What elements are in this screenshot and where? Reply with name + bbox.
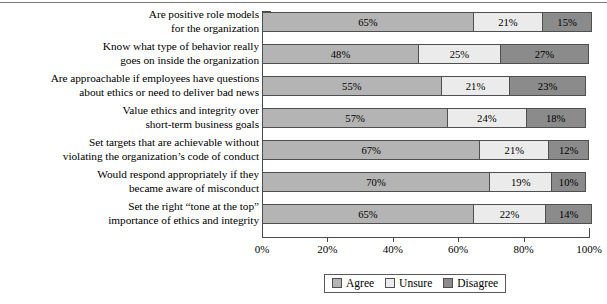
bar-segment-disagree: 18% [527,109,585,127]
bar-segment-value: 15% [557,17,576,28]
bar-segment-unsure: 24% [447,109,527,127]
x-tick-label: 100% [576,243,602,255]
stacked-bar: 67%21%12% [262,140,589,160]
bar-segment-disagree: 23% [510,77,584,95]
bar-segment-value: 21% [498,17,517,28]
category-label-line: Set targets that are achievable without [9,136,259,149]
legend-label-disagree: Disagree [457,277,498,289]
bar-segment-value: 14% [559,209,578,220]
bar-segment-value: 55% [342,81,361,92]
legend-item-unsure[interactable]: Unsure [385,277,432,289]
category-label-line: Would respond appropriately if they [9,168,259,181]
x-tick-label: 40% [383,243,403,255]
x-tick-mark [458,237,459,242]
bar-segment-agree: 67% [263,141,479,159]
category-label: Are approachable if employees have quest… [9,72,259,98]
bar-row: Are approachable if employees have quest… [0,76,607,96]
category-label-line: Set the right “tone at the top” [9,200,259,213]
bar-segment-value: 12% [559,145,578,156]
bar-segment-value: 22% [500,209,519,220]
x-tick-mark [524,237,525,242]
bar-segment-agree: 48% [263,45,418,63]
bar-segment-value: 19% [511,177,530,188]
bar-segment-unsure: 21% [479,141,549,159]
bar-segment-unsure: 19% [489,173,552,191]
category-label: Know what type of behavior reallygoes on… [9,40,259,66]
legend-swatch-agree-icon [332,278,342,288]
bar-segment-unsure: 21% [473,13,543,31]
bar-segment-value: 21% [505,145,524,156]
bar-segment-value: 23% [538,81,557,92]
stacked-bar: 65%21%15% [262,12,592,32]
bar-segment-disagree: 27% [501,45,588,63]
bar-segment-value: 57% [345,113,364,124]
stacked-bar: 57%24%18% [262,108,586,128]
bar-row: Set the right “tone at the top”importanc… [0,204,607,224]
bar-row: Value ethics and integrity overshort-ter… [0,108,607,128]
x-tick-label: 80% [514,243,534,255]
x-tick-label: 60% [448,243,468,255]
category-label: Set the right “tone at the top”importanc… [9,200,259,226]
legend-item-disagree[interactable]: Disagree [443,277,498,289]
category-label-line: importance of ethics and integrity [9,214,259,227]
x-axis-line [262,237,590,238]
bar-segment-value: 25% [450,49,469,60]
bar-segment-disagree: 14% [546,205,591,223]
bar-segment-value: 21% [466,81,485,92]
stacked-bar: 55%21%23% [262,76,586,96]
category-label-line: Know what type of behavior really [9,40,259,53]
category-label: Value ethics and integrity overshort-ter… [9,104,259,130]
bar-segment-agree: 65% [263,205,473,223]
chart-legend: Agree Unsure Disagree [324,274,506,293]
category-label-line: Value ethics and integrity over [9,104,259,117]
category-label-line: Are approachable if employees have quest… [9,72,259,85]
bar-segment-unsure: 22% [473,205,546,223]
legend-label-agree: Agree [346,277,374,289]
category-label-line: became aware of misconduct [9,182,259,195]
stacked-bar: 70%19%10% [262,172,586,192]
category-label: Are positive role modelsfor the organiza… [9,8,259,34]
bar-row: Are positive role modelsfor the organiza… [0,12,607,32]
bar-row: Would respond appropriately if theybecam… [0,172,607,192]
x-tick-mark [327,237,328,242]
category-label-line: about ethics or need to deliver bad news [9,86,259,99]
bar-segment-unsure: 21% [441,77,511,95]
bar-segment-value: 67% [361,145,380,156]
bar-segment-value: 70% [366,177,385,188]
bar-segment-disagree: 12% [549,141,588,159]
bar-row: Set targets that are achievable withoutv… [0,140,607,160]
x-tick-mark [393,237,394,242]
x-tick-label: 0% [255,243,270,255]
stacked-bar: 65%22%14% [262,204,592,224]
bar-segment-agree: 57% [263,109,447,127]
bar-segment-value: 10% [559,177,578,188]
category-label: Would respond appropriately if theybecam… [9,168,259,194]
bar-row: Know what type of behavior reallygoes on… [0,44,607,64]
bar-segment-value: 24% [477,113,496,124]
x-tick-label: 20% [317,243,337,255]
legend-item-agree[interactable]: Agree [332,277,374,289]
stacked-bar: 48%25%27% [262,44,589,64]
stacked-bar-chart: Are positive role modelsfor the organiza… [0,0,607,304]
legend-label-unsure: Unsure [399,277,432,289]
category-label-line: for the organization [9,22,259,35]
bar-segment-value: 65% [358,209,377,220]
x-axis-right-cap [589,228,590,237]
bar-segment-agree: 55% [263,77,441,95]
legend-swatch-disagree-icon [443,278,453,288]
bar-segment-value: 48% [331,49,350,60]
bar-segment-disagree: 15% [543,13,591,31]
bar-segment-unsure: 25% [418,45,501,63]
bar-segment-value: 65% [358,17,377,28]
legend-swatch-unsure-icon [385,278,395,288]
category-label: Set targets that are achievable withoutv… [9,136,259,162]
bar-segment-agree: 65% [263,13,473,31]
category-label-line: short-term business goals [9,118,259,131]
category-label-line: Are positive role models [9,8,259,21]
category-label-line: violating the organization’s code of con… [9,150,259,163]
bar-segment-value: 27% [535,49,554,60]
category-label-line: goes on inside the organization [9,54,259,67]
bar-segment-value: 18% [546,113,565,124]
bar-segment-disagree: 10% [552,173,584,191]
bar-segment-agree: 70% [263,173,489,191]
